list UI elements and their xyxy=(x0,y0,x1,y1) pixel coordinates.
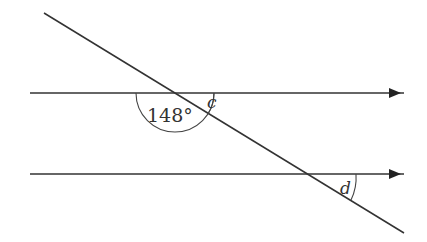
angle-diagram: 148° c d xyxy=(0,0,427,242)
arrow-head-top xyxy=(389,88,401,98)
transversal-line xyxy=(44,13,404,233)
angle-arc-d xyxy=(351,174,356,200)
label-angle-d: d xyxy=(340,178,351,198)
label-148-degrees: 148° xyxy=(147,104,193,126)
arrow-head-bottom xyxy=(389,169,401,179)
label-angle-c: c xyxy=(207,92,217,112)
